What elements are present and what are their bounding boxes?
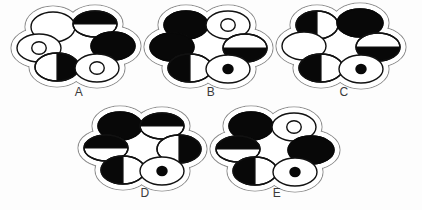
cluster-c [269,0,419,93]
cluster-e [202,100,352,196]
cluster-d [70,100,220,196]
cluster-label-d: D [130,186,160,200]
cell-c-bottom-right [339,55,383,83]
cluster-label-c: C [329,85,359,99]
cluster-label-e: E [262,186,292,200]
cluster-label-a: A [64,85,94,99]
cluster-b [136,0,286,93]
cluster-a [4,0,154,93]
figure-canvas: ABCDE [0,0,422,210]
cell-e-bottom-right [273,158,317,186]
cluster-label-b: B [196,85,226,99]
cell-b-bottom-right [206,55,250,83]
cell-d-bottom-right [140,157,184,185]
cell-a-bottom-right [75,54,119,82]
